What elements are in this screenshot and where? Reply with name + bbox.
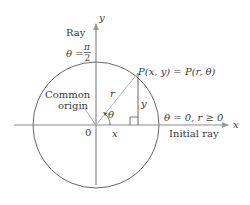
pi-numerator: π [83,42,91,52]
two-denominator: 2 [85,53,91,63]
theta-zero-label: θ = 0, r ≥ 0 [164,112,224,123]
origin-pointer [85,109,95,124]
point-label: P(x, y) = P(r, θ) [137,66,216,77]
origin-zero-label: 0 [85,127,91,138]
ray-label: Ray [66,27,86,38]
theta-pi-over-2-label: θ = [66,48,84,59]
right-angle-marker [130,117,138,125]
theta-angle-label: θ [108,109,114,120]
y-segment-label: y [140,98,147,109]
initial-ray-label: Initial ray [169,128,219,139]
x-segment-label: x [112,128,118,139]
common-label: Common [45,89,91,100]
origin-label: origin [58,100,89,111]
y-axis-label: y [98,12,105,23]
x-axis-label: x [233,119,239,130]
r-label: r [110,88,116,99]
polar-diagram: y x 0 Ray θ = π 2 Common origin P(x, y) … [0,0,250,205]
